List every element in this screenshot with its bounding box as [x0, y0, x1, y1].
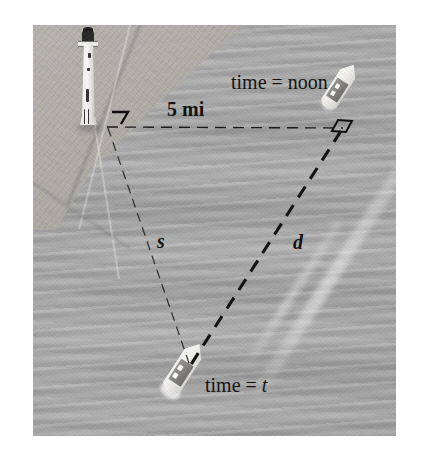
label-time-t: time = t	[205, 375, 267, 395]
label-time-noon: time = noon	[231, 72, 328, 92]
label-side-d: d	[293, 232, 303, 252]
label-baseline-distance: 5 mi	[167, 99, 204, 119]
label-time-t-variable: t	[262, 374, 268, 396]
figure-container: 5 mi time = noon time = t s d	[0, 0, 422, 461]
label-side-s: s	[157, 231, 165, 251]
label-time-t-prefix: time =	[205, 374, 262, 396]
